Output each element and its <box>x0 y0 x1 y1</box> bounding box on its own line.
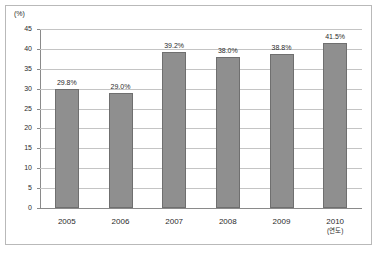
y-axis-tick-mark <box>37 69 40 70</box>
y-axis-tick-label: 30 <box>6 85 32 93</box>
y-axis-tick-mark <box>37 208 40 209</box>
gridline <box>40 128 362 129</box>
y-axis-tick-label: 45 <box>6 25 32 33</box>
gridline <box>40 188 362 189</box>
y-axis-tick-mark <box>37 148 40 149</box>
gridline <box>40 208 362 209</box>
y-axis-tick-mark <box>37 89 40 90</box>
y-axis-tick-mark <box>37 49 40 50</box>
gridline <box>40 109 362 110</box>
x-axis-tick-label: 2007 <box>152 217 196 226</box>
y-axis-tick-mark <box>37 29 40 30</box>
bar-value-label: 41.5% <box>313 33 357 41</box>
gridline <box>40 49 362 50</box>
bar-value-label: 39.2% <box>152 42 196 50</box>
bar <box>216 57 240 208</box>
y-axis-tick-label: 10 <box>6 164 32 172</box>
y-axis-tick-label: 15 <box>6 144 32 152</box>
y-axis-unit-label: (%) <box>14 10 25 17</box>
gridline <box>40 69 362 70</box>
x-axis-tick-label: 2005 <box>45 217 89 226</box>
bar <box>270 54 294 208</box>
bar-value-label: 38.8% <box>260 44 304 52</box>
y-axis-tick-label: 0 <box>6 204 32 212</box>
gridline <box>40 148 362 149</box>
y-axis-tick-mark <box>37 109 40 110</box>
plot-area <box>40 29 362 208</box>
bar <box>55 89 79 208</box>
y-axis-tick-label: 35 <box>6 65 32 73</box>
bar-value-label: 29.0% <box>99 83 143 91</box>
y-axis-tick-label: 40 <box>6 45 32 53</box>
bar <box>162 52 186 208</box>
x-axis-tick-label: 2006 <box>99 217 143 226</box>
x-axis-tick-label: 2008 <box>206 217 250 226</box>
bar <box>323 43 347 208</box>
y-axis-tick-label: 25 <box>6 105 32 113</box>
gridline <box>40 168 362 169</box>
y-axis-tick-mark <box>37 168 40 169</box>
y-axis-tick-mark <box>37 128 40 129</box>
x-axis-tick-label: 2010 <box>313 217 357 226</box>
chart-figure: (%) 051015202530354045 29.8%29.0%39.2%38… <box>0 0 382 254</box>
y-axis-tick-label: 5 <box>6 184 32 192</box>
x-axis-unit-label: (연도) <box>313 227 357 235</box>
y-axis-tick-label: 20 <box>6 124 32 132</box>
bar-value-label: 38.0% <box>206 47 250 55</box>
gridline <box>40 89 362 90</box>
x-axis-tick-label: 2009 <box>260 217 304 226</box>
gridline <box>40 29 362 30</box>
y-axis-tick-mark <box>37 188 40 189</box>
bar-value-label: 29.8% <box>45 79 89 87</box>
bar <box>109 93 133 208</box>
